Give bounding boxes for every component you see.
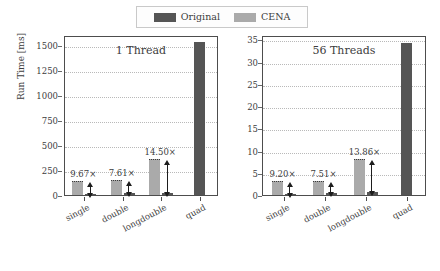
legend-swatch-original bbox=[154, 13, 176, 22]
y-tick-label: 10 bbox=[247, 147, 258, 156]
x-tick-mark bbox=[84, 197, 85, 201]
y-tick-mark bbox=[58, 96, 62, 97]
x-tick-mark bbox=[161, 197, 162, 201]
y-tick-mark bbox=[58, 46, 62, 47]
y-tick-mark bbox=[58, 71, 62, 72]
y-tick-label: 750 bbox=[42, 117, 58, 126]
y-tick-mark bbox=[58, 171, 62, 172]
y-tick-label: 35 bbox=[247, 36, 258, 45]
ratio-arrow-longdouble bbox=[371, 164, 372, 193]
x-tick-label-quad: quad bbox=[184, 203, 207, 221]
x-tick-label-single: single bbox=[65, 203, 92, 223]
y-tick-label: 25 bbox=[247, 81, 258, 90]
panel-1-thread: Run Time [ms] 0250500750100012501500 9.6… bbox=[18, 36, 218, 228]
plot-axes-right: 9.20×7.51×13.86× 56 Threads singledouble… bbox=[262, 36, 426, 196]
y-axis-ticks-left: 0250500750100012501500 bbox=[32, 36, 62, 196]
x-axis-ticks-right: singledoublelongdoublequad bbox=[263, 197, 425, 229]
panel-56-threads: 05101520253035 9.20×7.51×13.86× 56 Threa… bbox=[232, 36, 426, 228]
ratio-arrow-double bbox=[128, 185, 129, 193]
ratio-annotation-longdouble: 13.86× bbox=[349, 148, 380, 157]
x-tick-mark bbox=[123, 197, 124, 201]
x-tick-mark bbox=[407, 197, 408, 201]
ratio-annotation-double: 7.51× bbox=[310, 170, 336, 179]
ratio-arrow-longdouble bbox=[167, 164, 168, 192]
plot-area-right: 9.20×7.51×13.86× bbox=[263, 37, 425, 195]
x-tick-label-longdouble: longdouble bbox=[326, 203, 372, 233]
plot-area-left: 9.67×7.61×14.50× bbox=[65, 37, 217, 195]
y-tick-label: 1000 bbox=[36, 92, 58, 101]
x-tick-label-quad: quad bbox=[391, 203, 414, 221]
ratio-annotation-single: 9.20× bbox=[269, 170, 295, 179]
y-tick-label: 1250 bbox=[36, 67, 58, 76]
bar-original-quad bbox=[194, 42, 205, 195]
plot-axes-left: 9.67×7.61×14.50× 1 Thread singledoublelo… bbox=[64, 36, 218, 196]
x-tick-mark bbox=[284, 197, 285, 201]
y-tick-label: 500 bbox=[42, 142, 58, 151]
ratio-arrow-single bbox=[90, 186, 91, 194]
y-tick-mark bbox=[58, 196, 62, 197]
legend-entry-cena: CENA bbox=[234, 12, 290, 22]
ratio-arrow-double bbox=[330, 186, 331, 193]
legend-swatch-cena bbox=[234, 13, 256, 22]
x-tick-mark bbox=[366, 197, 367, 201]
y-tick-label: 250 bbox=[42, 167, 58, 176]
bar-original-quad bbox=[401, 43, 412, 195]
y-tick-label: 30 bbox=[247, 58, 258, 67]
y-tick-label: 15 bbox=[247, 125, 258, 134]
y-axis-label: Run Time [ms] bbox=[16, 33, 26, 100]
x-tick-mark bbox=[325, 197, 326, 201]
y-tick-mark bbox=[58, 146, 62, 147]
legend-label-cena: CENA bbox=[261, 12, 290, 22]
ratio-annotation-single: 9.67× bbox=[70, 170, 96, 179]
ratio-arrow-single bbox=[289, 186, 290, 194]
x-tick-mark bbox=[200, 197, 201, 201]
bar-cena-longdouble bbox=[149, 159, 160, 195]
x-tick-label-single: single bbox=[264, 203, 291, 223]
bar-cena-double bbox=[111, 180, 122, 195]
panel-title-right: 56 Threads bbox=[263, 44, 425, 57]
y-axis-ticks-right: 05101520253035 bbox=[232, 36, 262, 196]
ratio-annotation-longdouble: 14.50× bbox=[145, 148, 176, 157]
legend-entry-original: Original bbox=[154, 12, 220, 22]
panel-title-left: 1 Thread bbox=[65, 44, 217, 57]
y-tick-label: 20 bbox=[247, 103, 258, 112]
legend-label-original: Original bbox=[181, 12, 220, 22]
y-tick-label: 1500 bbox=[36, 42, 58, 51]
figure: Original CENA Run Time [ms] 025050075010… bbox=[0, 0, 440, 271]
x-tick-label-double: double bbox=[302, 203, 332, 224]
y-tick-mark bbox=[58, 121, 62, 122]
bar-cena-single bbox=[72, 181, 83, 196]
x-axis-ticks-left: singledoublelongdoublequad bbox=[65, 197, 217, 229]
bar-cena-longdouble bbox=[354, 159, 365, 195]
chart-legend: Original CENA bbox=[136, 6, 308, 28]
y-tick-mark bbox=[258, 196, 262, 197]
bar-cena-double bbox=[313, 181, 324, 195]
bar-cena-single bbox=[272, 181, 283, 195]
ratio-annotation-double: 7.61× bbox=[109, 169, 135, 178]
